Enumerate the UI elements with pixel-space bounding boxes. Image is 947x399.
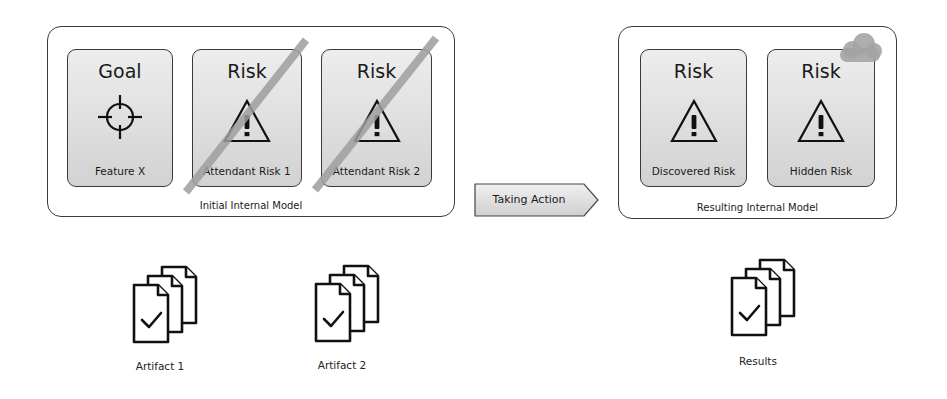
risk-card-label: Discovered Risk xyxy=(641,165,746,177)
warning-icon xyxy=(222,98,272,148)
results-label: Results xyxy=(708,355,808,367)
attendant-risk-1-card: Risk Attendant Risk 1 xyxy=(192,49,302,187)
documents-check-icon xyxy=(304,264,382,348)
taking-action-label: Taking Action xyxy=(474,183,584,216)
artifact-1-label: Artifact 1 xyxy=(110,360,210,372)
warning-icon xyxy=(669,98,719,148)
documents-check-icon xyxy=(720,258,798,342)
risk-card-label: Hidden Risk xyxy=(768,165,874,177)
artifact-2: Artifact 2 xyxy=(292,261,392,376)
risk-card-title: Risk xyxy=(193,60,301,82)
taking-action-arrow: Taking Action xyxy=(474,183,600,217)
resulting-model-caption: Resulting Internal Model xyxy=(619,202,896,213)
goal-card-label: Feature X xyxy=(68,165,172,177)
artifact-1: Artifact 1 xyxy=(110,262,210,377)
risk-card-label: Attendant Risk 1 xyxy=(193,165,301,177)
risk-card-title: Risk xyxy=(641,60,746,82)
risk-card-label: Attendant Risk 2 xyxy=(322,165,431,177)
warning-icon xyxy=(796,98,846,148)
risk-card-title: Risk xyxy=(768,60,874,82)
attendant-risk-2-card: Risk Attendant Risk 2 xyxy=(321,49,432,187)
crosshair-icon xyxy=(97,94,143,144)
results-artifact: Results xyxy=(708,255,808,370)
goal-card-title: Goal xyxy=(68,60,172,82)
documents-check-icon xyxy=(122,265,200,349)
discovered-risk-card: Risk Discovered Risk xyxy=(640,49,747,187)
artifact-2-label: Artifact 2 xyxy=(292,359,392,371)
goal-card: Goal Feature X xyxy=(67,49,173,187)
risk-card-title: Risk xyxy=(322,60,431,82)
warning-icon xyxy=(352,98,402,148)
initial-model-caption: Initial Internal Model xyxy=(48,200,454,211)
hidden-risk-card: Risk Hidden Risk xyxy=(767,49,875,187)
